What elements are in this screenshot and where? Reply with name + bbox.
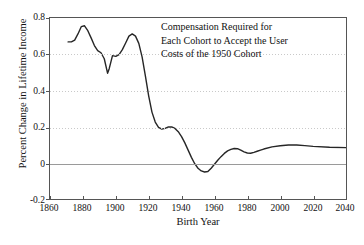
chart-annotation: Compensation Required for Each Cohort to…	[161, 20, 351, 61]
x-axis-title: Birth Year	[49, 216, 347, 227]
x-tick	[346, 196, 347, 200]
x-tick	[314, 196, 315, 200]
chart-figure: 0.8 0.6 0.4 0.2 0 -0.2	[0, 0, 364, 245]
x-tick	[50, 196, 51, 200]
y-tick	[46, 18, 50, 19]
annotation-line-2: Each Cohort to Accept the User	[161, 34, 351, 48]
annotation-line-3: Costs of the 1950 Cohort	[161, 47, 351, 61]
x-tick	[149, 196, 150, 200]
y-tick	[46, 128, 50, 129]
x-tick	[83, 196, 84, 200]
x-tick	[248, 196, 249, 200]
x-tick	[182, 196, 183, 200]
y-tick	[46, 164, 50, 165]
plot-area: Compensation Required for Each Cohort to…	[49, 17, 347, 200]
gridline-0.4	[50, 91, 346, 92]
gridline-zero	[50, 164, 346, 165]
y-tick	[46, 91, 50, 92]
gridline-0.2	[50, 128, 346, 129]
x-tick-label: 2040	[325, 202, 364, 214]
x-tick	[215, 196, 216, 200]
y-axis-title: Percent Change in Lifetime Income	[17, 0, 28, 194]
y-tick	[46, 54, 50, 55]
x-tick	[116, 196, 117, 200]
x-tick	[281, 196, 282, 200]
annotation-line-1: Compensation Required for	[161, 20, 351, 34]
